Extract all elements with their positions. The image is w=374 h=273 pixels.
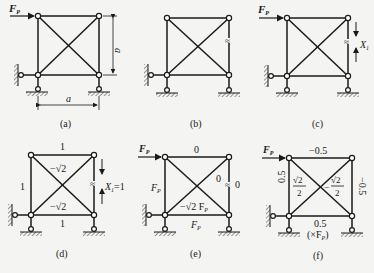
force-top: 1 — [60, 141, 65, 152]
load-arrow: FP — [262, 144, 285, 158]
panel-a: FP a a (a) — [8, 2, 124, 130]
redundant-x1-unit-label: X1=1 — [104, 181, 125, 193]
force-diagonal-upper: −√2 — [50, 163, 66, 174]
load-arrow: FP — [138, 143, 161, 157]
force-diagonal-right: 0 — [216, 173, 221, 184]
supports — [144, 64, 240, 97]
load-arrow: FP — [8, 2, 34, 16]
panel-e: ≈ FP 0 FP 0 0 −√2 FP FP (e) — [138, 143, 240, 260]
truss-members — [273, 158, 352, 230]
redundant-x1-label: X1 — [359, 39, 369, 51]
svg-text:√2: √2 — [293, 175, 302, 185]
force-right: 0 — [235, 179, 240, 190]
force-bottom: 0.5 — [314, 218, 327, 229]
load-arrow: FP — [257, 3, 283, 18]
dimension-vertical — [103, 16, 117, 75]
svg-text:√2: √2 — [331, 175, 340, 185]
truss-members — [149, 157, 229, 229]
panel-d: ≈ X1=1 1 1 1 −√2 −√2 (d) — [8, 141, 125, 260]
force-right: −0.5 — [357, 177, 368, 195]
svg-text:FP: FP — [8, 2, 20, 15]
force-left: 0.5 — [276, 171, 287, 184]
cut-symbol: ≈ — [225, 36, 230, 46]
dim-vertical-label: a — [113, 48, 124, 53]
svg-text:2: 2 — [335, 188, 340, 198]
force-diagonal-right: − √2 2 — [324, 175, 344, 198]
truss-members — [22, 16, 99, 89]
truss-members — [272, 18, 348, 90]
panel-f: FP −0.5 0.5 −0.5 √2 2 − √2 2 0.5 (×FP) — [262, 144, 368, 262]
unit-note: (×FP) — [307, 229, 329, 241]
force-bottom: FP — [190, 219, 201, 231]
caption-c: (c) — [312, 118, 323, 130]
force-left: 1 — [20, 181, 25, 192]
panel-b: ≈ (b) — [144, 15, 240, 130]
truss-figure: FP a a (a) ≈ — [0, 0, 374, 273]
dim-horizontal-label: a — [66, 93, 71, 104]
cut-symbol: ≈ — [225, 180, 230, 190]
force-diagonal-left: √2 2 — [293, 175, 306, 198]
cut-symbol: ≈ — [344, 37, 349, 47]
caption-d: (d) — [56, 248, 68, 260]
force-top: −0.5 — [309, 145, 327, 156]
force-diagonal: −√2 FP — [180, 201, 208, 213]
svg-text:−: − — [324, 182, 329, 192]
svg-text:FP: FP — [262, 144, 274, 156]
supports — [14, 64, 110, 96]
svg-text:2: 2 — [297, 188, 302, 198]
cut-symbol: ≈ — [90, 179, 95, 189]
svg-text:FP: FP — [257, 3, 269, 16]
truss-members — [152, 18, 229, 90]
force-bottom: 1 — [60, 218, 65, 229]
panel-c: ≈ X1 FP (c) — [257, 3, 369, 130]
caption-a: (a) — [60, 118, 71, 130]
svg-text:FP: FP — [138, 143, 150, 155]
force-left: FP — [150, 182, 161, 194]
caption-b: (b) — [190, 118, 202, 130]
caption-e: (e) — [190, 248, 201, 260]
force-diagonal-lower: −√2 — [50, 201, 66, 212]
caption-f: (f) — [313, 250, 323, 262]
supports — [264, 65, 359, 97]
force-top: 0 — [194, 144, 199, 155]
